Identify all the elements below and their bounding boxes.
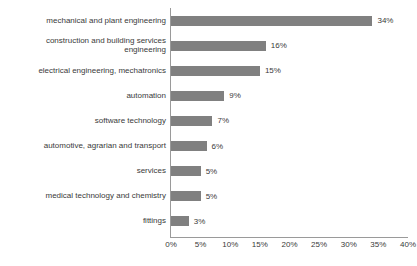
plot-area: mechanical and plant engineering34%const… <box>0 0 417 266</box>
bar-value-label: 5% <box>206 192 218 201</box>
bar-row: software technology7% <box>0 108 417 133</box>
category-label: services <box>2 166 166 176</box>
bar-row: construction and building services engin… <box>0 33 417 58</box>
category-label: electrical engineering, mechatronics <box>2 66 166 76</box>
category-label: automation <box>2 91 166 101</box>
x-tick-label: 35% <box>370 240 386 249</box>
bar-row: fittings3% <box>0 209 417 234</box>
bar <box>171 91 224 101</box>
bar-row: mechanical and plant engineering34% <box>0 8 417 33</box>
bar-value-label: 5% <box>206 167 218 176</box>
bar <box>171 116 212 126</box>
x-tick-label: 15% <box>252 240 268 249</box>
category-label: automotive, agrarian and transport <box>2 141 166 151</box>
x-axis-tick-labels: 0%5%10%15%20%25%30%35%40% <box>0 240 417 254</box>
bar-and-value: 5% <box>171 166 217 176</box>
x-tick-label: 30% <box>341 240 357 249</box>
bar-row: electrical engineering, mechatronics15% <box>0 58 417 83</box>
bar-row: automation9% <box>0 83 417 108</box>
x-tick-label: 10% <box>222 240 238 249</box>
bar-value-label: 7% <box>217 116 229 125</box>
bar-chart: mechanical and plant engineering34%const… <box>0 0 417 266</box>
bar <box>171 41 266 51</box>
category-label: software technology <box>2 116 166 126</box>
bar-and-value: 5% <box>171 191 217 201</box>
bar-value-label: 3% <box>194 217 206 226</box>
x-tick-label: 40% <box>400 240 416 249</box>
bar <box>171 166 201 176</box>
bar-and-value: 3% <box>171 216 205 226</box>
bar-and-value: 9% <box>171 91 241 101</box>
bar <box>171 141 207 151</box>
x-tick-label: 5% <box>195 240 207 249</box>
bar <box>171 16 372 26</box>
bar-value-label: 15% <box>265 66 281 75</box>
value-axis-line <box>170 237 408 238</box>
category-label: construction and building services engin… <box>2 36 166 55</box>
bar-rows: mechanical and plant engineering34%const… <box>0 8 417 234</box>
bar-value-label: 34% <box>377 16 393 25</box>
bar <box>171 66 260 76</box>
bar-and-value: 15% <box>171 66 281 76</box>
bar-and-value: 16% <box>171 41 287 51</box>
bar-and-value: 34% <box>171 16 393 26</box>
category-label: mechanical and plant engineering <box>2 16 166 26</box>
bar <box>171 191 201 201</box>
x-tick-label: 25% <box>311 240 327 249</box>
bar-value-label: 16% <box>271 41 287 50</box>
bar-value-label: 9% <box>229 91 241 100</box>
bar <box>171 216 189 226</box>
bar-row: services5% <box>0 159 417 184</box>
bar-value-label: 6% <box>212 142 224 151</box>
x-tick-label: 0% <box>165 240 177 249</box>
bar-and-value: 7% <box>171 116 229 126</box>
x-tick-label: 20% <box>281 240 297 249</box>
bar-and-value: 6% <box>171 141 223 151</box>
bar-row: automotive, agrarian and transport6% <box>0 133 417 158</box>
bar-row: medical technology and chemistry5% <box>0 184 417 209</box>
category-label: fittings <box>2 217 166 227</box>
category-label: medical technology and chemistry <box>2 191 166 201</box>
